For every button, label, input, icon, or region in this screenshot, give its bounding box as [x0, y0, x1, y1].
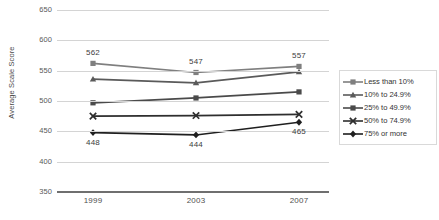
data-point-label: 562 — [73, 48, 113, 57]
grid-line — [57, 71, 329, 72]
x-axis-tick-label: 2003 — [166, 196, 226, 205]
legend-item[interactable]: Less than 10% — [342, 75, 433, 88]
data-point-square-marker — [90, 61, 95, 66]
y-axis-tick-label: 400 — [18, 158, 52, 166]
data-point-label: 557 — [279, 51, 319, 60]
data-point-square-marker — [296, 89, 301, 94]
x-axis-tick-label: 2007 — [269, 196, 329, 205]
grid-line — [57, 10, 329, 11]
y-axis-tick-label: 500 — [18, 97, 52, 105]
y-axis-tick-label: 650 — [18, 6, 52, 14]
legend-item-label: 50% to 74.9% — [364, 115, 411, 127]
legend-marker-x-icon — [342, 115, 364, 127]
legend-item-label: Less than 10% — [364, 76, 414, 88]
grid-line — [57, 40, 329, 41]
chart-figure: Average Scale Score 65060055050045040035… — [0, 0, 439, 220]
plot-area: 562547557448444465 — [57, 10, 329, 192]
y-axis-tick-label: 350 — [18, 188, 52, 196]
data-point-square-marker — [350, 79, 355, 84]
chart-legend: Less than 10%10% to 24.9%25% to 49.9%50%… — [339, 70, 437, 145]
legend-item-label: 75% or more — [364, 128, 407, 140]
y-axis-tick-label: 550 — [18, 67, 52, 75]
x-axis-tick-label: 1999 — [63, 196, 123, 205]
x-axis-ticks: 199920032007 — [57, 196, 329, 210]
data-point-square-marker — [350, 105, 355, 110]
legend-marker-diamond-icon — [342, 128, 364, 140]
axis-baseline — [57, 191, 329, 193]
legend-item[interactable]: 10% to 24.9% — [342, 88, 433, 101]
legend-item-label: 10% to 24.9% — [364, 89, 411, 101]
data-point-label: 465 — [279, 127, 319, 136]
data-point-square-marker — [193, 95, 198, 100]
legend-item[interactable]: 50% to 74.9% — [342, 114, 433, 127]
legend-marker-square-icon — [342, 102, 364, 114]
legend-item[interactable]: 75% or more — [342, 127, 433, 140]
data-point-diamond-marker — [296, 119, 302, 126]
data-point-label: 547 — [176, 57, 216, 66]
legend-item-label: 25% to 49.9% — [364, 102, 411, 114]
data-point-square-marker — [296, 64, 301, 69]
legend-marker-triangle-icon — [342, 89, 364, 101]
data-point-diamond-marker — [193, 132, 199, 139]
legend-marker-square-icon — [342, 76, 364, 88]
data-point-diamond-marker — [350, 130, 356, 137]
y-axis-tick-label: 450 — [18, 127, 52, 135]
legend-item[interactable]: 25% to 49.9% — [342, 101, 433, 114]
data-point-label: 448 — [73, 138, 113, 147]
y-axis-tick-label: 600 — [18, 36, 52, 44]
data-point-label: 444 — [176, 140, 216, 149]
y-axis-ticks: 650600550500450400350 — [0, 10, 52, 192]
grid-line — [57, 101, 329, 102]
data-point-diamond-marker — [90, 129, 96, 136]
grid-line — [57, 162, 329, 163]
